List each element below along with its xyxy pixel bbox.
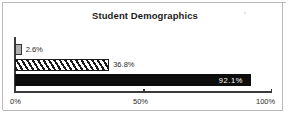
- x-axis-tick-label-100: 100%: [256, 97, 275, 106]
- x-axis-tick-50: [143, 89, 145, 93]
- bar-value-label-3: 92.1%: [219, 76, 243, 85]
- x-axis-tick-label-0: 0%: [10, 97, 21, 106]
- bar-series-2: [15, 59, 109, 71]
- x-axis-tick-0: [14, 89, 16, 93]
- bar-value-label-2: 36.8%: [113, 60, 134, 69]
- x-axis-tick-label-50: 50%: [133, 97, 148, 106]
- plot-area: 0% 50% 100% 2.6% 36.8% 92.1%: [0, 0, 290, 114]
- bar-series-1: [15, 44, 22, 55]
- bar-value-label-1: 2.6%: [26, 45, 43, 54]
- bar-series-3: [15, 74, 251, 86]
- x-axis-tick-100: [271, 89, 273, 93]
- chart-container: Student Demographics 0% 50% 100% 2.6% 36…: [0, 0, 290, 114]
